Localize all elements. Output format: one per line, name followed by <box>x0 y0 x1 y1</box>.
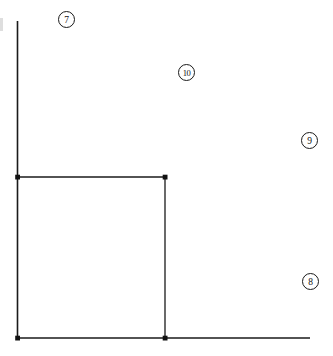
callout-10[interactable]: 10 <box>178 64 195 81</box>
corner-marker-bottom-right <box>163 336 168 341</box>
callout-8[interactable]: 8 <box>302 273 319 290</box>
corner-markers-group <box>15 175 167 341</box>
diagram-canvas: 7 10 9 8 <box>0 0 333 356</box>
callout-9-label: 9 <box>307 136 312 146</box>
corner-marker-bottom-left <box>15 336 20 341</box>
callout-7[interactable]: 7 <box>58 11 75 28</box>
callout-8-label: 8 <box>308 277 313 287</box>
corner-marker-top-left <box>15 175 20 180</box>
corner-marker-top-right <box>163 175 168 180</box>
region-group <box>18 177 166 338</box>
callout-10-label: 10 <box>183 68 190 78</box>
callout-7-label: 7 <box>64 15 69 25</box>
diagram-graphics <box>0 0 333 356</box>
cropped-edge-mark <box>0 18 3 31</box>
callout-9[interactable]: 9 <box>301 132 318 149</box>
